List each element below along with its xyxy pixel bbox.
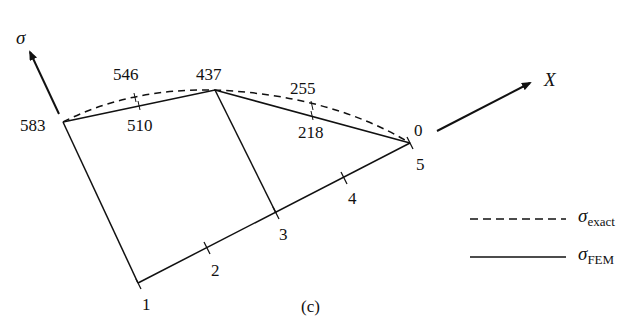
sigma-axis-label: σ — [16, 28, 25, 47]
fem-stress-line — [63, 90, 410, 143]
node1-tick — [136, 279, 141, 289]
legend-exact-symbol: σ — [578, 205, 587, 226]
x-axis-label: X — [544, 70, 556, 89]
legend-exact-sub: exact — [587, 214, 614, 229]
node-label-3: 3 — [279, 226, 288, 243]
node3-ordinate — [215, 90, 276, 213]
exact-value-mid-1-3: 546 — [113, 66, 139, 83]
legend-fem-symbol: σ — [578, 243, 587, 264]
node-label-5: 5 — [416, 156, 425, 173]
node-label-2: 2 — [211, 262, 220, 279]
x-axis-arrow — [437, 83, 530, 131]
fem-value-mid-3-5: 218 — [298, 124, 324, 141]
node1-ordinate — [63, 122, 138, 283]
node-label-1: 1 — [142, 296, 151, 313]
element-baseline — [138, 143, 410, 283]
stress-diagram — [0, 0, 636, 330]
legend-fem-sub: FEM — [587, 252, 614, 267]
fem-value-mid-1-3: 510 — [127, 117, 153, 134]
fem-value-node3: 437 — [196, 66, 222, 83]
legend-fem-label: σFEM — [578, 244, 614, 263]
sigma-axis-arrow — [30, 52, 59, 114]
fem-value-node1: 583 — [20, 117, 46, 134]
exact-value-mid-3-5: 255 — [290, 80, 316, 97]
node-label-4: 4 — [348, 190, 357, 207]
fem-value-node5: 0 — [414, 122, 423, 139]
legend-exact-label: σexact — [578, 206, 615, 225]
exact-mid-tick-2 — [311, 101, 313, 110]
figure-caption: (c) — [301, 298, 320, 315]
